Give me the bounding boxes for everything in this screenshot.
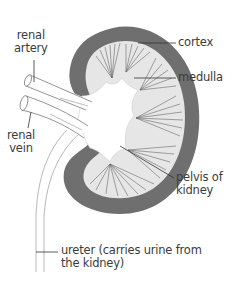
cortex-label: cortex	[178, 36, 213, 49]
renal-vein-label: renal vein	[7, 129, 35, 155]
ureter-label: ureter (carries urine from the kidney)	[61, 244, 202, 270]
renal-vein-leader	[28, 112, 31, 128]
renal-artery-label: renal artery	[14, 29, 48, 55]
renal-vein-label-line2: vein	[7, 142, 35, 155]
medulla-label: medulla	[178, 71, 223, 84]
ureter-label-line2: the kidney)	[61, 257, 202, 270]
pelvis-label: pelvis of kidney	[176, 171, 223, 197]
pelvis-label-line2: kidney	[176, 184, 223, 197]
renal-artery-label-line2: artery	[14, 42, 48, 55]
